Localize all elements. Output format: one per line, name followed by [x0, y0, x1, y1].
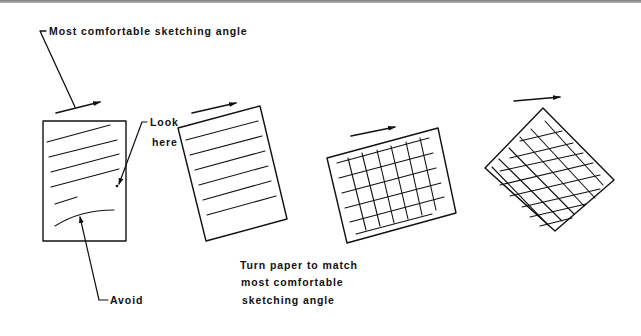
caption: Turn paper to match most comfortable ske… [240, 259, 358, 306]
top-callout: Most comfortable sketching angle [40, 25, 248, 107]
avoid-label: Avoid [110, 294, 143, 306]
direction-arrow-icon [514, 97, 560, 101]
look-label: Look [150, 116, 179, 128]
avoid-callout: Avoid [80, 217, 143, 306]
avoid-leader [80, 217, 108, 300]
sketch-lines [47, 125, 119, 226]
grid-lines [337, 138, 444, 234]
callout-leader [40, 31, 75, 107]
paper-1 [43, 102, 126, 241]
look-here-callout: Look here [119, 116, 179, 184]
caption-line-2: most comfortable [241, 276, 344, 288]
direction-arrow-icon [192, 103, 236, 113]
paper-2 [178, 103, 287, 241]
sketch-lines [186, 121, 276, 215]
caption-line-3: sketching angle [242, 294, 335, 306]
here-label: here [152, 136, 178, 148]
top-callout-label: Most comfortable sketching angle [49, 25, 248, 37]
paper-3 [327, 127, 456, 243]
paper-sheet [178, 106, 287, 241]
grid-lines [492, 121, 603, 226]
paper-4 [485, 97, 614, 231]
diagram-svg: Most comfortable sketching angle Look he… [0, 0, 641, 336]
look-leader [119, 122, 147, 184]
look-point [116, 185, 119, 188]
diagram-canvas: Most comfortable sketching angle Look he… [0, 0, 641, 336]
direction-arrow-icon [56, 102, 100, 113]
paper-sheet [327, 128, 456, 243]
paper-sheet [43, 121, 126, 241]
direction-arrow-icon [351, 127, 395, 136]
caption-line-1: Turn paper to match [240, 259, 358, 271]
